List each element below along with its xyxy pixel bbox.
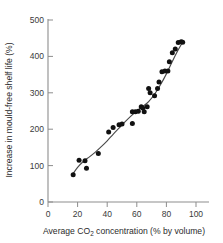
data-point bbox=[146, 86, 151, 91]
data-point bbox=[71, 172, 76, 177]
y-tick-label-500: 500 bbox=[30, 15, 44, 25]
data-point bbox=[77, 158, 82, 163]
data-point bbox=[130, 121, 135, 126]
y-tick-label-400: 400 bbox=[30, 51, 44, 61]
x-tick-label-60: 60 bbox=[132, 209, 142, 219]
data-point bbox=[152, 93, 157, 98]
fitted-trend-curve bbox=[73, 42, 183, 174]
data-point bbox=[142, 109, 147, 114]
data-point bbox=[145, 104, 150, 109]
x-tick-labels: 0 20 40 60 80 100 bbox=[46, 209, 204, 219]
data-point bbox=[148, 90, 153, 95]
data-point bbox=[155, 86, 160, 91]
scatter-plot: 500 400 300 200 100 0 0 20 40 60 80 100 … bbox=[0, 0, 223, 243]
data-point bbox=[111, 125, 116, 130]
x-tick-label-20: 20 bbox=[73, 209, 83, 219]
data-point bbox=[83, 158, 88, 163]
y-tick-labels: 500 400 300 200 100 0 bbox=[30, 15, 44, 207]
data-point bbox=[180, 40, 185, 45]
data-point bbox=[167, 59, 172, 64]
data-point bbox=[165, 68, 170, 73]
chart-figure: 500 400 300 200 100 0 0 20 40 60 80 100 … bbox=[0, 0, 223, 243]
x-tick-label-100: 100 bbox=[189, 209, 203, 219]
data-point bbox=[136, 109, 141, 114]
y-tick-marks bbox=[48, 20, 53, 202]
y-tick-label-0: 0 bbox=[39, 197, 44, 207]
data-points-group bbox=[71, 39, 186, 177]
x-tick-label-40: 40 bbox=[102, 209, 112, 219]
data-point bbox=[120, 122, 125, 127]
x-tick-label-80: 80 bbox=[162, 209, 172, 219]
data-point bbox=[96, 151, 101, 156]
x-axis-title-main: Average CO bbox=[43, 226, 90, 236]
data-point bbox=[157, 79, 162, 84]
y-tick-label-200: 200 bbox=[30, 124, 44, 134]
x-tick-marks bbox=[48, 202, 196, 207]
y-tick-label-100: 100 bbox=[30, 161, 44, 171]
y-tick-label-300: 300 bbox=[30, 88, 44, 98]
data-point bbox=[84, 166, 89, 171]
x-tick-label-0: 0 bbox=[46, 209, 51, 219]
data-point bbox=[173, 47, 178, 52]
y-axis-title: Increase in mould-free shelf life (%) bbox=[4, 42, 14, 177]
x-axis-title: Average CO2 concentration (% by volume) bbox=[43, 226, 205, 237]
x-axis-title-tail: concentration (% by volume) bbox=[94, 226, 205, 236]
data-point bbox=[106, 130, 111, 135]
